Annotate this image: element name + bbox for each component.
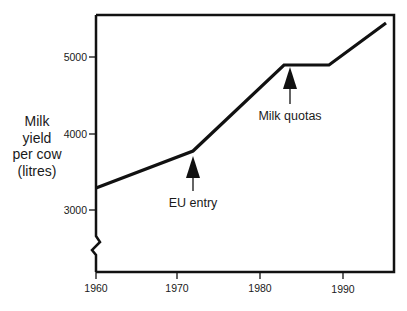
milk-quotas-arrow-icon xyxy=(283,67,297,104)
milk-yield-line xyxy=(96,23,386,188)
y-axis-title-line: (litres) xyxy=(18,163,57,179)
y-tick-label-4000: 4000 xyxy=(64,128,88,140)
y-axis-with-break xyxy=(92,15,100,272)
eu-entry-label: EU entry xyxy=(169,196,218,210)
milk-quotas-label: Milk quotas xyxy=(258,109,321,123)
milk-yield-chart: 5000 4000 3000 1960 1970 1980 1990 Milk … xyxy=(0,0,407,311)
eu-entry-arrow-icon xyxy=(186,156,200,191)
x-tick-label-1990: 1990 xyxy=(331,283,355,295)
y-axis-title-line: yield xyxy=(23,130,52,146)
x-tick-label-1960: 1960 xyxy=(84,282,108,294)
y-tick-label-5000: 5000 xyxy=(64,51,88,63)
y-axis-title-line: Milk xyxy=(25,113,51,129)
plot-frame xyxy=(96,15,394,272)
x-tick-label-1970: 1970 xyxy=(165,282,189,294)
y-axis-title-line: per cow xyxy=(12,146,62,162)
y-axis-title: Milk yield per cow (litres) xyxy=(12,113,62,179)
y-tick-label-3000: 3000 xyxy=(64,204,88,216)
x-tick-label-1980: 1980 xyxy=(248,282,272,294)
